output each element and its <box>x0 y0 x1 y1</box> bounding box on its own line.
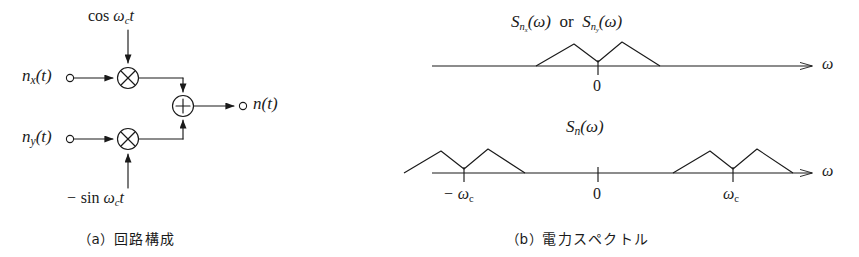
spectrum-bottom-trace-upper <box>673 149 793 173</box>
input-terminal-nx <box>66 74 73 81</box>
caption-b-index: （b） <box>506 231 542 247</box>
spectrum-bottom-tick-label-pos-wc: ωc <box>723 186 739 205</box>
carrier-label-cos: cos ωct <box>88 8 134 26</box>
figure-vector-graphics <box>0 0 859 257</box>
panel-b-spectra <box>404 42 812 182</box>
spectrum-top-title: Snx(ω) or Sny(ω) <box>511 13 622 33</box>
spectrum-top-trace <box>536 42 660 66</box>
spectrum-top-axis-label: ω <box>822 56 833 72</box>
spectrum-bottom-tick-label-neg-wc: − ωc <box>443 186 474 205</box>
output-label-nt: n(t) <box>253 95 278 112</box>
figure-container: cos ωct nx(t) ny(t) n(t) − sin ωct Snx(ω… <box>0 0 859 257</box>
input-label-ny: ny(t) <box>22 128 52 148</box>
spectrum-top-tick-label-zero: 0 <box>593 78 601 94</box>
caption-a-text: 回路構成 <box>114 231 176 247</box>
caption-panel-b: （b）電力スペクトル <box>506 228 650 248</box>
carrier-label-neg-sin: − sin ωct <box>66 190 124 208</box>
panel-a-circuit <box>66 30 246 188</box>
spectrum-bottom-title: Sn(ω) <box>566 118 604 138</box>
caption-a-index: （a） <box>78 231 114 247</box>
caption-b-text: 電力スペクトル <box>542 231 650 247</box>
input-terminal-ny <box>66 135 73 142</box>
output-terminal-nt <box>239 102 246 109</box>
caption-panel-a: （a）回路構成 <box>78 228 176 248</box>
spectrum-bottom-axis-label: ω <box>822 163 833 179</box>
input-label-nx: nx(t) <box>22 67 52 87</box>
spectrum-bottom-tick-label-zero: 0 <box>593 186 601 202</box>
